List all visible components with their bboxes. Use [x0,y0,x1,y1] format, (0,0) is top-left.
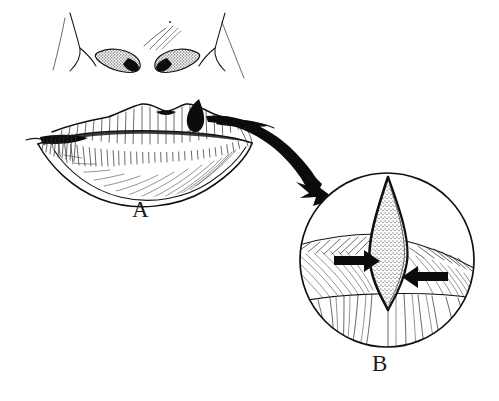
panel-label-b: B [372,352,388,375]
panel-label-a: A [132,198,149,221]
nose-tip-dot [169,21,171,23]
figure-root: A B [0,0,499,401]
figure-illustration [0,0,499,401]
